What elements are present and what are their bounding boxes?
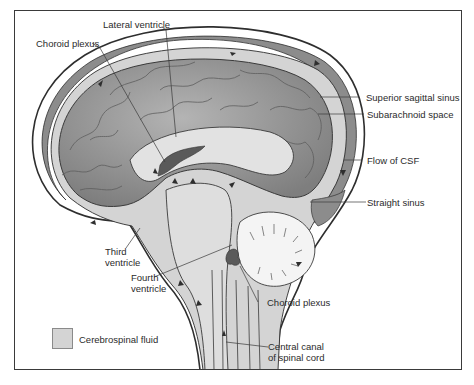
- label-flow-of-csf: Flow of CSF: [367, 155, 419, 166]
- choroid-plexus-fourth: [226, 249, 240, 265]
- label-central-canal-line2: of spinal cord: [268, 352, 325, 363]
- label-lateral-ventricle: Lateral ventricle: [103, 19, 170, 30]
- legend-swatch-csf: [52, 328, 73, 349]
- label-third-ventricle-line2: ventricle: [105, 257, 140, 268]
- cerebellum: [237, 212, 315, 286]
- legend-label-csf: Cerebrospinal fluid: [79, 334, 158, 345]
- label-choroid-plexus-bottom: Choroid plexus: [267, 297, 330, 308]
- label-fourth-ventricle-line2: ventricle: [131, 283, 166, 294]
- label-superior-sagittal-sinus: Superior sagittal sinus: [366, 92, 459, 103]
- label-choroid-plexus-top: Choroid plexus: [36, 38, 99, 49]
- label-straight-sinus: Straight sinus: [367, 197, 425, 208]
- label-third-ventricle-line1: Third: [105, 246, 127, 257]
- label-fourth-ventricle-line1: Fourth: [131, 272, 158, 283]
- label-subarachnoid-space: Subarachnoid space: [367, 109, 454, 120]
- label-central-canal-line1: Central canal: [268, 341, 324, 352]
